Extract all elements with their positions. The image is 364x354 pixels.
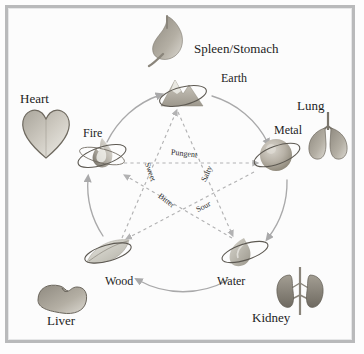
stomach-icon [145, 14, 191, 68]
element-node-metal[interactable] [251, 132, 305, 176]
organ-label-liver: Liver [47, 314, 75, 327]
organ-icon-heart [19, 104, 73, 162]
element-node-earth[interactable] [155, 70, 209, 114]
organ-label-kidney: Kidney [252, 311, 290, 324]
heart-icon [19, 104, 73, 162]
element-label-earth: Earth [221, 72, 247, 84]
leaf-orbit-icon [81, 230, 135, 274]
five-elements-diagram-page: Spleen/Stomach Heart Lung Liver Kidney E… [0, 0, 364, 354]
organ-label-spleen-stomach: Spleen/Stomach [194, 42, 279, 55]
mountain-orbit-icon [155, 70, 209, 114]
organ-icon-spleen-stomach [145, 14, 191, 68]
lungs-icon [304, 110, 352, 162]
organ-icon-lung [304, 110, 352, 162]
organ-label-heart: Heart [20, 92, 49, 105]
sphere-orbit-icon [251, 132, 305, 176]
controlling-cycle-arrows [122, 112, 256, 238]
element-label-wood: Wood [105, 275, 133, 287]
element-label-fire: Fire [83, 127, 102, 139]
droplet-orbit-icon [218, 230, 272, 274]
element-node-water[interactable] [218, 230, 272, 274]
element-label-water: Water [217, 275, 245, 287]
element-label-metal: Metal [274, 124, 302, 136]
element-node-wood[interactable] [81, 230, 135, 274]
organ-label-lung: Lung [297, 99, 324, 112]
